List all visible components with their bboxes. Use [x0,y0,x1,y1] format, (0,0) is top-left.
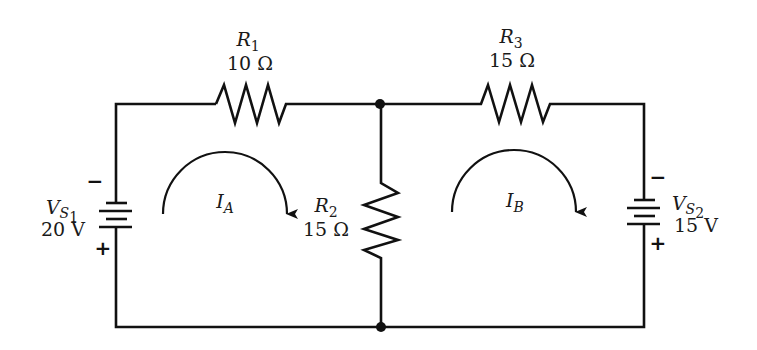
battery-vs2 [627,200,660,224]
resistor-r3 [380,85,644,200]
vs1-minus-sign: − [87,169,104,193]
r2-value: 15 Ω [303,218,349,240]
battery-vs1 [99,203,132,227]
r1-value: 10 Ω [227,52,273,74]
r3-label: R3 [498,25,522,51]
vs1-plus-sign: + [95,236,112,260]
r2-label: R2 [313,194,337,220]
r3-value: 15 Ω [489,49,535,71]
circuit-diagram: − + − + R1 10 Ω R3 15 Ω R2 15 Ω VS1 20 V… [0,0,757,350]
r1-label: R1 [235,28,259,54]
loop-ib-label: IB [505,189,524,215]
wire-bottom-left [116,226,380,327]
wire-bottom-right [380,224,644,327]
resistor-r2 [364,104,398,327]
left-branch [116,104,380,327]
wire-top-left [116,104,216,203]
vs2-value: 15 V [674,214,718,236]
vs1-value: 20 V [41,218,85,240]
junction-bottom [376,322,386,332]
loop-ia-label: IA [215,190,234,216]
vs2-minus-sign: − [650,165,667,189]
junction-top [375,99,385,109]
resistor-r1 [216,85,380,123]
vs2-plus-sign: + [650,231,667,255]
